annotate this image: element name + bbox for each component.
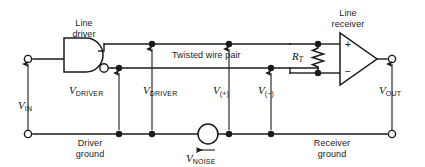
rt-symbol: R — [292, 50, 299, 62]
v-noise-symbol: V — [186, 152, 193, 164]
v-out-symbol: V — [379, 84, 386, 96]
junction-gnd-driver-1 — [116, 131, 122, 137]
line-driver-label-line2: driver — [56, 29, 112, 40]
v-in-symbol: V — [18, 99, 25, 111]
v-minus-symbol: V — [258, 84, 265, 96]
v-in-top-terminal[interactable] — [24, 55, 31, 62]
junction-rt-bottom — [315, 70, 321, 76]
driver-ground-label-line1: Driver — [62, 138, 118, 149]
junction-top-wire-driver — [149, 41, 155, 47]
junction-gnd-recv-2 — [268, 131, 274, 137]
v-in-subscript: IN — [25, 105, 32, 112]
v-out-top-terminal[interactable] — [388, 55, 395, 62]
junction-bot-wire-recv — [268, 65, 274, 71]
noise-source-circle-icon — [198, 124, 218, 144]
v-driver-2-label: VDRIVER — [143, 84, 177, 96]
circuit-diagram: Line driver Line receiver Twisted wire p… — [0, 0, 425, 167]
v-driver-2-symbol: V — [143, 84, 150, 96]
driver-ground-label: Driver ground — [62, 138, 118, 159]
v-out-subscript: OUT — [386, 90, 401, 97]
junction-bot-wire-driver — [116, 65, 122, 71]
termination-resistor-label: RT — [292, 50, 303, 62]
v-driver-2-subscript: DRIVER — [150, 90, 178, 97]
line-driver-label-line1: Line — [56, 18, 112, 29]
opamp-minus-sign: − — [345, 67, 351, 77]
junction-gnd-driver-2 — [149, 131, 155, 137]
line-driver-label: Line driver — [56, 18, 112, 39]
v-minus-subscript: (−) — [265, 90, 274, 97]
v-driver-1-symbol: V — [69, 84, 76, 96]
v-driver-1-label: VDRIVER — [69, 84, 103, 96]
receiver-ground-label-line1: Receiver — [302, 138, 362, 149]
driver-ground-label-line2: ground — [62, 149, 118, 160]
v-noise-label: VNOISE — [186, 152, 216, 164]
v-out-label: VOUT — [379, 84, 401, 96]
v-in-bottom-terminal[interactable] — [24, 130, 31, 137]
opamp-plus-sign: + — [345, 40, 351, 50]
v-plus-label: V(+) — [213, 84, 229, 96]
twisted-wire-pair-label: Twisted wire pair — [172, 50, 241, 61]
line-receiver-label-line1: Line — [316, 8, 380, 19]
v-minus-label: V(−) — [258, 84, 274, 96]
junction-top-wire-recv — [226, 41, 232, 47]
driver-gate-body — [64, 38, 103, 72]
noise-voltage-source[interactable] — [198, 124, 218, 144]
receiver-ground-label-line2: ground — [302, 149, 362, 160]
receiver-ground-label: Receiver ground — [302, 138, 362, 159]
junction-gnd-recv-1 — [226, 131, 232, 137]
driver-gate-inversion-bubble-icon — [100, 64, 108, 72]
v-plus-subscript: (+) — [220, 90, 229, 97]
v-plus-symbol: V — [213, 84, 220, 96]
v-in-label: VIN — [18, 99, 32, 111]
v-out-bottom-terminal[interactable] — [388, 130, 395, 137]
junction-rt-top — [315, 41, 321, 47]
line-driver-gate[interactable] — [64, 38, 108, 72]
line-receiver-label-line2: receiver — [316, 19, 380, 30]
v-noise-subscript: NOISE — [193, 158, 216, 165]
v-driver-1-subscript: DRIVER — [76, 90, 104, 97]
line-receiver-label: Line receiver — [316, 8, 380, 29]
rt-subscript: T — [299, 55, 303, 64]
